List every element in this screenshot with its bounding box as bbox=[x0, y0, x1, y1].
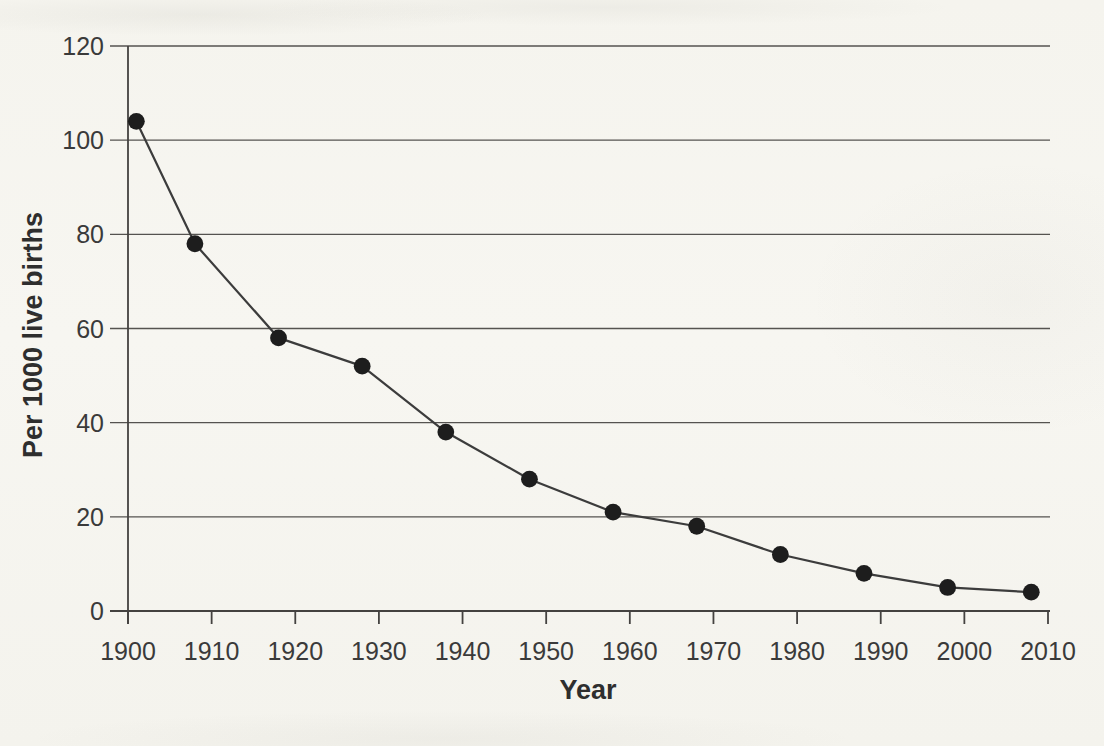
data-point bbox=[856, 565, 873, 582]
tick-label-layer: 0204060801001201900191019201930194019501… bbox=[62, 32, 1076, 665]
data-point bbox=[270, 330, 287, 347]
y-tick-label: 0 bbox=[90, 597, 104, 625]
y-tick-label: 20 bbox=[76, 503, 104, 531]
data-point bbox=[437, 424, 454, 441]
data-point bbox=[521, 471, 538, 488]
data-point bbox=[187, 235, 204, 252]
data-point bbox=[688, 518, 705, 535]
infant-mortality-line-chart: 0204060801001201900191019201930194019501… bbox=[0, 0, 1104, 746]
y-tick-label: 100 bbox=[62, 126, 104, 154]
axis-layer bbox=[128, 46, 1048, 624]
y-axis-title: Per 1000 live births bbox=[18, 212, 48, 458]
x-tick-label: 1910 bbox=[184, 637, 240, 665]
data-point bbox=[1023, 584, 1040, 601]
y-tick-label: 120 bbox=[62, 32, 104, 60]
y-tick-label: 60 bbox=[76, 315, 104, 343]
x-tick-label: 1980 bbox=[769, 637, 825, 665]
data-series-layer bbox=[128, 113, 1040, 601]
y-tick-label: 40 bbox=[76, 409, 104, 437]
x-tick-label: 1920 bbox=[267, 637, 323, 665]
data-point bbox=[772, 546, 789, 563]
data-point bbox=[128, 113, 145, 130]
scanned-page: 0204060801001201900191019201930194019501… bbox=[0, 0, 1104, 746]
x-axis-title: Year bbox=[559, 675, 617, 705]
x-tick-label: 1930 bbox=[351, 637, 407, 665]
x-tick-label: 1900 bbox=[100, 637, 156, 665]
x-tick-label: 1990 bbox=[853, 637, 909, 665]
grid-layer bbox=[110, 46, 1050, 611]
y-tick-label: 80 bbox=[76, 220, 104, 248]
data-point bbox=[354, 358, 371, 375]
x-tick-label: 2000 bbox=[937, 637, 993, 665]
data-point bbox=[605, 504, 622, 521]
data-line bbox=[136, 121, 1031, 592]
x-tick-label: 1960 bbox=[602, 637, 658, 665]
x-tick-label: 1940 bbox=[435, 637, 491, 665]
x-tick-label: 1950 bbox=[518, 637, 574, 665]
data-point bbox=[939, 579, 956, 596]
x-tick-label: 2010 bbox=[1020, 637, 1076, 665]
x-tick-label: 1970 bbox=[686, 637, 742, 665]
